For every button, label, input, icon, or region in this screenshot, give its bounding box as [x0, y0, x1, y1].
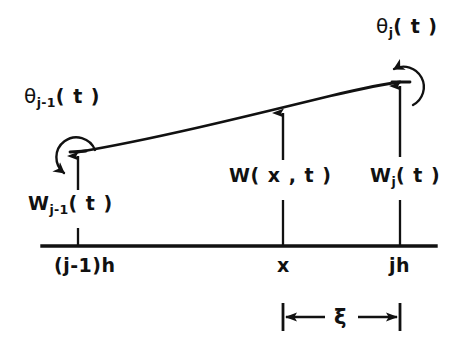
- axis-label-node-right: jh: [389, 256, 410, 275]
- label-w-j-arg: ( t ): [396, 164, 441, 186]
- label-xi: ξ: [334, 307, 346, 328]
- label-theta-j-arg: ( t ): [393, 15, 438, 37]
- label-w-j-minus-1: Wj-1( t ): [28, 194, 113, 217]
- label-theta-j-minus-1-arg: ( t ): [56, 85, 101, 107]
- label-w-j-minus-1-arg: ( t ): [69, 192, 114, 214]
- beam-end-stub-left: [70, 151, 86, 152]
- label-theta-j: θj( t ): [376, 16, 438, 40]
- rotation-arc-left: [56, 137, 95, 173]
- label-w-x-t-symbol: W: [229, 164, 250, 186]
- deflected-beam-curve: [78, 82, 400, 152]
- label-w-x-t-arg: ( x , t ): [250, 164, 331, 186]
- label-theta-j-minus-1-symbol: θ: [24, 84, 37, 108]
- axis-label-point-x: x: [277, 256, 290, 275]
- label-theta-j-minus-1: θj-1( t ): [24, 86, 101, 110]
- label-w-j-symbol: W: [370, 164, 391, 186]
- label-w-j-minus-1-subscript: j-1: [49, 202, 68, 217]
- label-w-x-t: W( x , t ): [229, 166, 332, 185]
- label-w-j: Wj( t ): [370, 166, 441, 189]
- label-w-j-minus-1-symbol: W: [28, 192, 49, 214]
- rotation-arc-right: [394, 67, 424, 105]
- label-theta-j-minus-1-subscript: j-1: [37, 95, 56, 110]
- label-theta-j-symbol: θ: [376, 14, 389, 38]
- axis-label-node-left: (j-1)h: [54, 256, 116, 275]
- beam-element-figure: θj( t ) θj-1( t ) W( x , t ) Wj( t ) Wj-…: [0, 0, 467, 351]
